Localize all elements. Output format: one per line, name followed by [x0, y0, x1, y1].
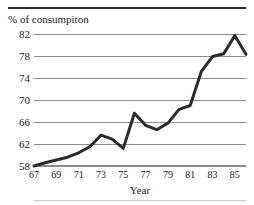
y-axis-title: % of consumpiton	[8, 13, 89, 25]
top-divider-rule	[8, 7, 246, 9]
gridline	[34, 166, 246, 167]
y-tick-label: 82	[19, 29, 30, 40]
x-tick-label: 67	[29, 170, 39, 180]
x-tick-label: 83	[208, 170, 218, 180]
y-tick-label: 78	[19, 51, 30, 62]
x-tick-label: 73	[96, 170, 106, 180]
x-tick-label: 81	[185, 170, 195, 180]
x-axis-title: Year	[34, 184, 246, 196]
bottom-divider-rule	[34, 200, 246, 201]
series-polyline	[34, 36, 246, 166]
data-line-series	[34, 34, 246, 166]
x-tick-label: 69	[51, 170, 61, 180]
x-tick-label: 79	[163, 170, 173, 180]
y-tick-label: 62	[19, 139, 30, 150]
y-tick-label: 70	[19, 95, 30, 106]
y-tick-label: 74	[19, 73, 30, 84]
chart-figure: % of consumpiton 82787470666258 67697173…	[0, 0, 254, 205]
x-tick-label: 71	[74, 170, 84, 180]
x-tick-label: 75	[118, 170, 128, 180]
x-tick-label: 77	[141, 170, 151, 180]
y-tick-label: 66	[19, 117, 30, 128]
cropped-header-text	[86, 0, 148, 5]
plot-area: 82787470666258 67697173757779818385 Year	[34, 34, 246, 166]
x-tick-label: 85	[230, 170, 240, 180]
